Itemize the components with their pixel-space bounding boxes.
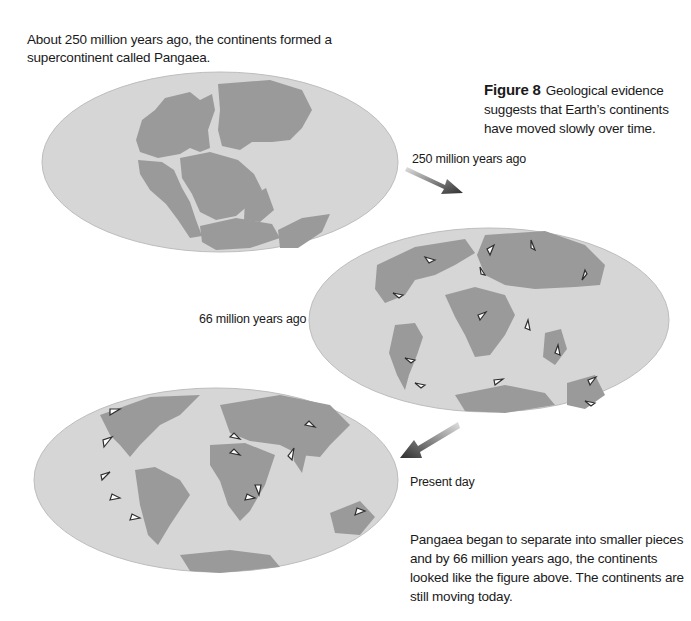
label-66-mya: 66 million years ago bbox=[199, 310, 306, 328]
figure-number: Figure 8 bbox=[484, 81, 541, 98]
bottom-caption: Pangaea began to separate into smaller p… bbox=[410, 530, 690, 606]
transition-arrow-2 bbox=[398, 420, 460, 464]
map-present-day bbox=[30, 385, 400, 575]
figure-caption: Figure 8Geological evidence suggests tha… bbox=[484, 80, 684, 138]
transition-arrow-1 bbox=[405, 165, 465, 199]
top-caption: About 250 million years ago, the contine… bbox=[27, 31, 347, 67]
label-present-day: Present day bbox=[410, 473, 475, 491]
